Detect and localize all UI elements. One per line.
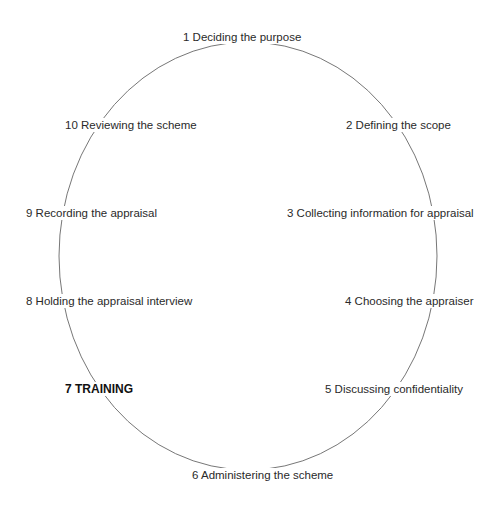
step-8-label: 8 Holding the appraisal interview bbox=[23, 294, 195, 308]
step-3-label: 3 Collecting information for appraisal bbox=[284, 206, 477, 220]
step-5-label: 5 Discussing confidentiality bbox=[322, 382, 466, 396]
step-10-label: 10 Reviewing the scheme bbox=[62, 118, 200, 132]
step-9-label: 9 Recording the appraisal bbox=[23, 206, 160, 220]
step-2-label: 2 Defining the scope bbox=[343, 118, 454, 132]
step-6-label: 6 Administering the scheme bbox=[189, 468, 336, 482]
step-1-label: 1 Deciding the purpose bbox=[180, 30, 304, 44]
step-4-label: 4 Choosing the appraiser bbox=[342, 294, 477, 308]
appraisal-cycle-diagram: 1 Deciding the purpose 2 Defining the sc… bbox=[0, 0, 500, 511]
cycle-ellipse bbox=[0, 0, 500, 511]
step-7-label: 7 TRAINING bbox=[62, 382, 136, 396]
